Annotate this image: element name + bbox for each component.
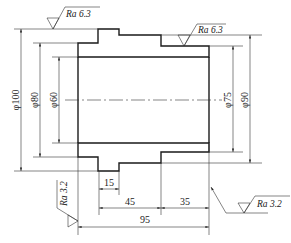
dim-d60-label: φ60 (48, 92, 59, 108)
roughness-symbol-bottom-left: Ra 3.2 (57, 180, 78, 227)
technical-drawing: φ100 φ80 φ60 φ75 φ90 15 45 35 95 Ra 6.3 … (0, 0, 291, 243)
roughness-symbol-bottom-right: Ra 3.2 (211, 187, 290, 213)
dim-d90-label: φ90 (239, 92, 250, 108)
section-bottom-wall (78, 143, 209, 171)
dim-l35-label: 35 (180, 196, 190, 207)
dim-d100-label: φ100 (10, 90, 21, 111)
dim-l95-label: 95 (140, 214, 150, 225)
dim-d75-label: φ75 (222, 92, 233, 108)
ra-top-right-label: Ra 6.3 (197, 25, 223, 35)
ra-bottom-right-label: Ra 3.2 (256, 199, 282, 209)
dim-d80-label: φ80 (29, 92, 40, 108)
dim-l15-label: 15 (104, 177, 114, 188)
ra-top-left-label: Ra 6.3 (65, 9, 91, 19)
roughness-symbol-top-left: Ra 6.3 (47, 7, 100, 29)
ra-bottom-left-label: Ra 3.2 (59, 181, 69, 207)
dim-l45-label: 45 (125, 196, 135, 207)
section-top-wall (78, 29, 209, 57)
